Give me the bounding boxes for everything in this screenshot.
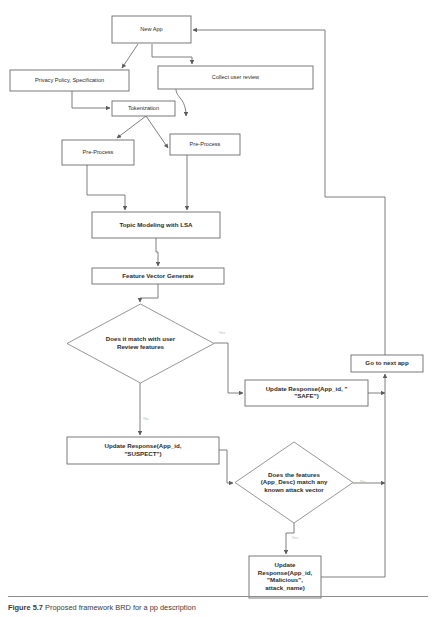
node-label-pre-process-right: Pre-Process xyxy=(190,141,221,147)
node-pre-process-right[interactable]: Pre-Process xyxy=(170,134,240,155)
node-label-feature-vector: Feature Vector Generate xyxy=(122,272,194,279)
figure-caption-text: Proposed framework BRD for a pp descript… xyxy=(45,603,196,612)
node-go-to-next-app[interactable]: Go to next app xyxy=(351,355,423,372)
edge-tokenization-to-preprocess-right xyxy=(146,116,168,148)
node-decision-user-review[interactable]: Does it match with userReview features xyxy=(67,304,214,383)
node-label-update-suspect: "SUSPECT") xyxy=(124,450,161,457)
node-label-decision-attack-vector: known attack vector xyxy=(264,486,324,493)
edge-suspect-to-decision-attack xyxy=(219,450,233,483)
node-feature-vector[interactable]: Feature Vector Generate xyxy=(92,268,224,284)
node-label-collect-user-review: Collect user review xyxy=(212,74,260,80)
node-label-go-to-next-app: Go to next app xyxy=(365,359,409,366)
edge-collect-to-tokenization xyxy=(176,89,186,116)
figure-container: New AppPrivacy Policy, SpecificationColl… xyxy=(0,0,443,617)
figure-caption-label: Figure 5.7 xyxy=(8,603,43,612)
label-no-review: No xyxy=(143,416,149,421)
node-label-decision-user-review: Review features xyxy=(117,343,165,350)
node-update-safe[interactable]: Update Response(App_id, ""SAFE") xyxy=(245,380,368,406)
node-label-update-malicious: attack_name) xyxy=(265,584,305,591)
edge-topic-to-feature xyxy=(156,238,158,266)
node-update-suspect[interactable]: Update Response(App_id,"SUSPECT") xyxy=(67,437,219,464)
node-decision-attack-vector[interactable]: Does the features(App_Desc) match anykno… xyxy=(235,442,353,523)
figure-caption: Figure 5.7 Proposed framework BRD for a … xyxy=(8,603,433,612)
edge-privacy-to-tokenization xyxy=(72,91,110,108)
node-tokenization[interactable]: Tokenization xyxy=(112,101,175,116)
node-label-new-app: New App xyxy=(140,26,162,32)
node-privacy-policy[interactable]: Privacy Policy, Specification xyxy=(10,70,129,91)
label-no-attack: No xyxy=(360,479,366,484)
node-topic-modeling[interactable]: Topic Modeling with LSA xyxy=(92,212,220,238)
edge-newapp-to-collect xyxy=(152,44,192,64)
node-collect-user-review[interactable]: Collect user review xyxy=(158,66,313,89)
node-label-update-malicious: Update xyxy=(275,561,297,568)
node-label-topic-modeling: Topic Modeling with LSA xyxy=(119,221,193,228)
node-label-decision-attack-vector: Does the features xyxy=(268,471,320,478)
node-label-pre-process-left: Pre-Process xyxy=(83,149,114,155)
edge-tokenization-to-preprocess-left xyxy=(117,116,146,138)
node-label-tokenization: Tokenization xyxy=(128,105,159,111)
flowchart-diagram: New AppPrivacy Policy, SpecificationColl… xyxy=(0,0,443,617)
node-label-privacy-policy: Privacy Policy, Specification xyxy=(35,77,104,83)
caption-divider xyxy=(8,596,428,597)
edge-decision-review-yes-to-safe xyxy=(214,343,243,393)
node-pre-process-left[interactable]: Pre-Process xyxy=(62,140,134,165)
edge-newapp-to-privacy xyxy=(122,44,138,68)
node-new-app[interactable]: New App xyxy=(112,16,191,43)
node-label-decision-user-review: Does it match with user xyxy=(106,335,176,342)
node-label-update-safe: Update Response(App_id, " xyxy=(266,385,348,392)
node-label-update-malicious: Response(App_id, xyxy=(258,569,313,576)
edge-preprocess-left-to-topic xyxy=(87,165,125,210)
node-label-update-malicious: "Malicious", xyxy=(267,576,303,583)
node-label-decision-attack-vector: (App_Desc) match any xyxy=(261,478,328,485)
edge-feature-to-decision-review xyxy=(140,284,158,302)
node-update-malicious[interactable]: UpdateResponse(App_id,"Malicious",attack… xyxy=(249,556,321,598)
node-label-update-safe: "SAFE") xyxy=(294,392,318,399)
label-yes-attack: Yes xyxy=(292,535,299,540)
label-yes-review: Yes xyxy=(219,330,226,335)
node-label-update-suspect: Update Response(App_id, xyxy=(104,442,181,449)
